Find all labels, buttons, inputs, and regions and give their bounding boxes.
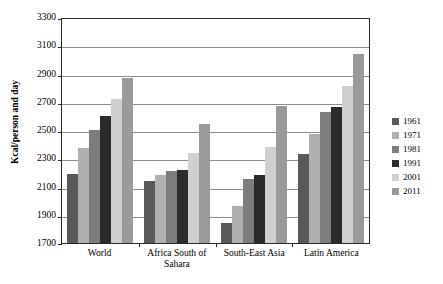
x-axis-label-line: South-East Asia: [216, 248, 293, 259]
bar[interactable]: [309, 134, 320, 243]
bar[interactable]: [320, 112, 331, 243]
bar[interactable]: [166, 171, 177, 243]
legend-label: 1961: [403, 116, 421, 126]
bar[interactable]: [89, 130, 100, 243]
bar[interactable]: [100, 116, 111, 243]
legend-swatch: [392, 160, 399, 167]
legend-item[interactable]: 1981: [392, 142, 421, 156]
bar-group-bars: [144, 19, 210, 243]
x-axis-tick: [139, 243, 140, 247]
bar[interactable]: [122, 78, 133, 243]
bar[interactable]: [276, 106, 287, 243]
bar[interactable]: [254, 175, 265, 243]
legend: 196119711981199120012011: [392, 114, 421, 198]
x-axis-label-line: Latin America: [293, 248, 370, 259]
bar[interactable]: [232, 206, 243, 243]
bar[interactable]: [177, 170, 188, 243]
legend-swatch: [392, 118, 399, 125]
x-axis-label-line: Africa South of: [138, 248, 215, 259]
chart-container: Kcal/person and day 17001900210023002500…: [0, 0, 443, 284]
bar[interactable]: [199, 124, 210, 243]
legend-label: 1981: [403, 144, 421, 154]
bar[interactable]: [155, 175, 166, 243]
bar-group: [62, 19, 139, 243]
bar[interactable]: [144, 181, 155, 243]
bar[interactable]: [78, 148, 89, 243]
bar[interactable]: [265, 147, 276, 243]
bar-group-bars: [298, 19, 364, 243]
legend-label: 1971: [403, 130, 421, 140]
x-axis-label: World: [61, 248, 138, 270]
y-axis-tick-label: 2900: [18, 70, 56, 80]
bar[interactable]: [342, 86, 353, 243]
x-axis-tick: [292, 243, 293, 247]
y-axis-tick: [58, 244, 62, 245]
y-axis-tick-label: 3300: [18, 13, 56, 23]
legend-label: 2001: [403, 172, 421, 182]
x-axis-label: Latin America: [293, 248, 370, 270]
bar-group-bars: [221, 19, 287, 243]
legend-item[interactable]: 2001: [392, 170, 421, 184]
y-axis-tick-label: 2300: [18, 154, 56, 164]
legend-swatch: [392, 146, 399, 153]
y-axis-title: Kcal/person and day: [4, 0, 26, 244]
bar[interactable]: [221, 223, 232, 243]
bar[interactable]: [243, 179, 254, 243]
bar[interactable]: [111, 99, 122, 243]
legend-item[interactable]: 1961: [392, 114, 421, 128]
bar-group-bars: [67, 19, 133, 243]
legend-swatch: [392, 132, 399, 139]
x-axis-tick: [216, 243, 217, 247]
bar-group: [216, 19, 293, 243]
legend-label: 1991: [403, 158, 421, 168]
legend-label: 2011: [403, 186, 421, 196]
y-axis-title-text: Kcal/person and day: [10, 80, 20, 164]
legend-swatch: [392, 188, 399, 195]
y-axis-tick-label: 1900: [18, 211, 56, 221]
y-axis-tick-label: 2500: [18, 126, 56, 136]
legend-item[interactable]: 2011: [392, 184, 421, 198]
y-axis-tick-label: 2700: [18, 98, 56, 108]
legend-swatch: [392, 174, 399, 181]
x-axis-label-line: Sahara: [138, 259, 215, 270]
x-axis-label-line: World: [61, 248, 138, 259]
x-axis-labels: WorldAfrica South ofSaharaSouth-East Asi…: [61, 248, 370, 270]
bar[interactable]: [298, 154, 309, 243]
bar-group: [292, 19, 369, 243]
bar[interactable]: [331, 107, 342, 243]
plot-area: [61, 18, 370, 244]
legend-item[interactable]: 1991: [392, 156, 421, 170]
bar[interactable]: [188, 153, 199, 243]
y-axis-tick-label: 2100: [18, 183, 56, 193]
y-axis-tick-label: 1700: [18, 239, 56, 249]
y-axis-tick-label: 3100: [18, 41, 56, 51]
bar[interactable]: [353, 54, 364, 243]
x-axis-label: South-East Asia: [216, 248, 293, 270]
bar-group: [139, 19, 216, 243]
x-axis-label: Africa South ofSahara: [138, 248, 215, 270]
bar-groups: [62, 19, 369, 243]
bar[interactable]: [67, 174, 78, 243]
legend-item[interactable]: 1971: [392, 128, 421, 142]
